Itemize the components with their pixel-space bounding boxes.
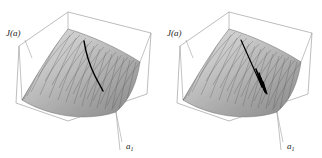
vertical-axis-left: J(a) bbox=[6, 28, 32, 58]
vertical-axis-right: J(a) bbox=[167, 28, 193, 58]
two-panel-surface-figure: J(a) a1 bbox=[0, 0, 322, 158]
surface-plot-left: J(a) a1 bbox=[0, 0, 161, 158]
horizontal-axis-label-left: a1 bbox=[126, 141, 134, 152]
vertical-axis-label-left: J(a) bbox=[6, 28, 21, 38]
surface-plot-right: J(a) a1 bbox=[161, 0, 322, 158]
panel-smooth-descent: J(a) a1 bbox=[0, 0, 161, 158]
panel-oscillating-descent: J(a) a1 bbox=[161, 0, 322, 158]
vertical-axis-label-right: J(a) bbox=[167, 28, 182, 38]
surface-mesh-left bbox=[21, 29, 140, 117]
horizontal-axis-label-right: a1 bbox=[287, 141, 295, 152]
horizontal-axis-right: a1 bbox=[277, 112, 295, 152]
horizontal-axis-left: a1 bbox=[116, 112, 134, 152]
